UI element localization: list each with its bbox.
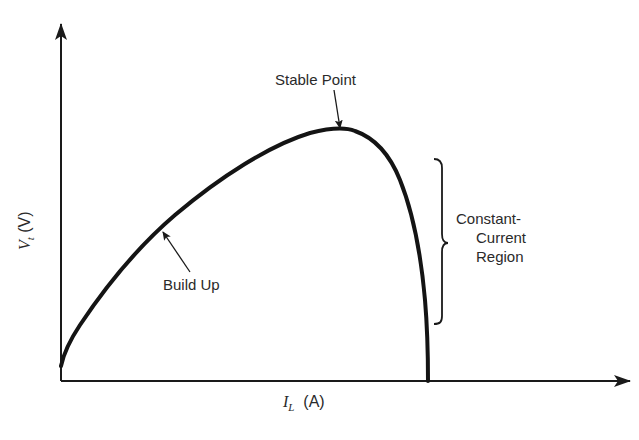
stable-point-arrow xyxy=(334,90,340,128)
x-axis-label: IL (A) xyxy=(283,393,325,413)
build-up-arrow xyxy=(163,232,190,272)
y-axis-label: Vt (V) xyxy=(16,211,36,250)
region-label-line3: Region xyxy=(456,247,526,266)
constant-current-region-label: Constant- Current Region xyxy=(456,209,526,266)
y-axis-symbol: V xyxy=(16,240,33,250)
characteristic-curve-svg xyxy=(0,0,639,440)
constant-current-brace xyxy=(434,159,448,324)
voltage-buildup-curve xyxy=(61,129,428,381)
y-axis-subscript: t xyxy=(24,237,36,240)
region-label-line1: Constant- xyxy=(456,209,526,228)
diagram-canvas: Vt (V) IL (A) Stable Point Build Up Cons… xyxy=(0,0,639,440)
x-axis-unit: (A) xyxy=(303,393,324,410)
x-axis-subscript: L xyxy=(288,401,294,413)
region-label-line2: Current xyxy=(456,228,526,247)
stable-point-label: Stable Point xyxy=(275,71,356,89)
build-up-label: Build Up xyxy=(163,276,220,294)
y-axis-unit: (V) xyxy=(16,211,33,232)
